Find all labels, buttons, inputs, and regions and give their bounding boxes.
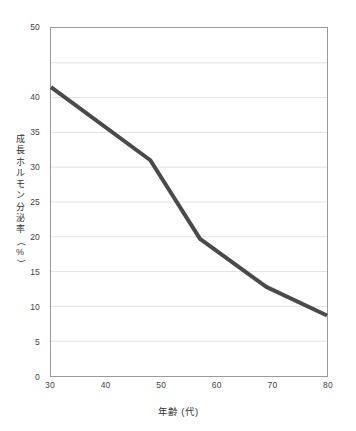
x-tick-label: 50 [156,380,166,390]
x-axis-title: 年齢 (代) [0,404,356,418]
y-axis-tick-labels: 051015202530354050 [0,27,46,377]
x-axis-tick-labels: 304050607080 [50,380,328,394]
data-series-line [51,28,327,376]
x-tick-label: 80 [323,380,333,390]
y-tick-label: 15 [30,267,40,277]
y-tick-label: 0 [35,372,40,382]
plot-area [50,27,328,377]
y-tick-label: 50 [30,22,40,32]
y-tick-label: 30 [30,162,40,172]
x-tick-label: 60 [212,380,222,390]
x-tick-label: 30 [45,380,55,390]
y-tick-label: 35 [30,127,40,137]
y-tick-label: 40 [30,92,40,102]
y-tick-label: 25 [30,197,40,207]
x-tick-label: 70 [267,380,277,390]
x-tick-label: 40 [101,380,111,390]
y-tick-label: 20 [30,232,40,242]
series-line [51,87,327,315]
growth-hormone-secretion-chart: 成長ホルモン分泌率（%） 051015202530354050 30405060… [0,0,356,431]
y-tick-label: 5 [35,337,40,347]
y-tick-label: 10 [30,302,40,312]
